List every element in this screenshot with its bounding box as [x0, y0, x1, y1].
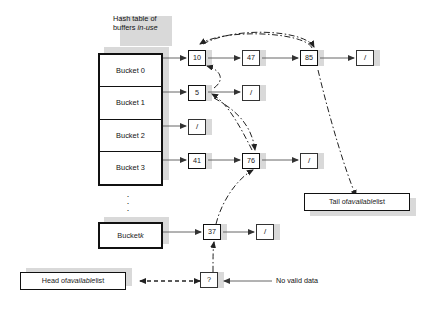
buffer-node-null-bucket0-value: / — [364, 54, 366, 62]
tail-label-suffix: list — [376, 198, 385, 206]
link-avail-5-to-10 — [207, 66, 220, 88]
head-label-prefix: Head of — [42, 277, 67, 285]
buffer-node-37-value: 37 — [208, 228, 216, 236]
buffer-node-47[interactable]: 47 — [242, 50, 260, 66]
buffer-node-unknown-value: ? — [207, 276, 211, 284]
ellipsis-dot-3: . — [126, 205, 130, 212]
buffer-node-null-bucketk: / — [256, 224, 274, 240]
bucket-row-3[interactable]: Bucket 3 — [100, 152, 161, 184]
buffer-node-null-bucket1-value: / — [250, 89, 252, 97]
bucket-label-3: Bucket 3 — [116, 163, 145, 172]
diagram-title-line2-emphasis: in-use — [138, 23, 158, 32]
tail-label-emphasis: available — [348, 198, 376, 206]
bucket-label-1: Bucket 1 — [116, 98, 145, 107]
buffer-node-10-value: 10 — [193, 54, 201, 62]
buffer-node-47-value: 47 — [247, 54, 255, 62]
link-avail-5-to-76 — [214, 98, 255, 150]
buffer-node-85[interactable]: 85 — [300, 50, 318, 66]
diagram-title-line1: Hash table of — [113, 14, 157, 23]
link-avail-85-to-10 — [200, 34, 312, 48]
buffer-node-76-value: 76 — [247, 157, 255, 165]
tail-of-available-list-label: Tail of available list — [304, 193, 410, 211]
buffer-node-null-bucket0: / — [356, 50, 374, 66]
link-avail-76-to-5 — [212, 94, 252, 150]
buffer-node-null-bucket2: / — [188, 119, 206, 135]
bucket-row-k[interactable]: Bucket k — [98, 222, 163, 249]
buffer-node-null-bucket2-value: / — [196, 123, 198, 131]
bucket-label-k-prefix: Bucket — [117, 232, 140, 240]
bucket-row-1[interactable]: Bucket 1 — [100, 87, 161, 119]
buffer-node-5[interactable]: 5 — [188, 85, 206, 101]
buffer-node-null-bucket3-value: / — [308, 157, 310, 165]
no-valid-data-label: No valid data — [276, 276, 318, 285]
link-85-to-tail-label — [318, 70, 356, 196]
link-avail-unknown-to-37 — [213, 242, 214, 272]
connector-layer — [0, 0, 433, 310]
diagram-title-line2-prefix: buffers — [113, 23, 138, 32]
buffer-node-37[interactable]: 37 — [203, 224, 221, 240]
link-avail-37-to-76 — [216, 170, 253, 224]
buffer-node-null-bucket1: / — [242, 85, 260, 101]
buffer-node-85-value: 85 — [305, 54, 313, 62]
hash-table: Bucket 0 Bucket 1 Bucket 2 Bucket 3 — [98, 53, 163, 186]
buffer-node-10[interactable]: 10 — [188, 50, 206, 66]
bucket-label-2: Bucket 2 — [116, 131, 145, 140]
head-of-available-list-label: Head of available list — [20, 272, 126, 290]
buffer-node-unknown[interactable]: ? — [200, 272, 218, 288]
bucket-label-k-emphasis: k — [140, 232, 144, 240]
bucket-row-2[interactable]: Bucket 2 — [100, 120, 161, 152]
diagram-canvas: Hash table of buffers in-use Bucket 0 Bu… — [0, 0, 433, 310]
link-avail-10-to-85 — [203, 32, 314, 47]
head-label-emphasis: available — [67, 277, 95, 285]
buffer-node-null-bucketk-value: / — [264, 228, 266, 236]
bucket-row-0[interactable]: Bucket 0 — [100, 55, 161, 87]
buffer-node-5-value: 5 — [195, 89, 199, 97]
diagram-title: Hash table of buffers in-use — [113, 14, 158, 33]
bucket-ellipsis: . . . — [126, 191, 130, 212]
buffer-node-76[interactable]: 76 — [242, 153, 260, 169]
bucket-label-0: Bucket 0 — [116, 66, 145, 75]
tail-label-prefix: Tail of — [329, 198, 348, 206]
buffer-node-41[interactable]: 41 — [188, 153, 206, 169]
buffer-node-41-value: 41 — [193, 157, 201, 165]
head-label-suffix: list — [95, 277, 104, 285]
buffer-node-null-bucket3: / — [300, 153, 318, 169]
no-valid-data-text: No valid data — [276, 276, 318, 285]
